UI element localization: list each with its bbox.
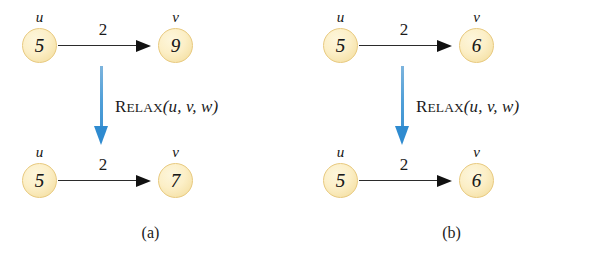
edge-arrow <box>58 44 162 47</box>
panel-caption-a: (a) <box>0 224 301 242</box>
panel-caption-b: (b) <box>301 224 602 242</box>
source-node: 5 <box>22 28 57 63</box>
target-node-name: v <box>459 10 494 25</box>
relax-label-smallcaps: ELAX <box>427 100 463 115</box>
relax-arrow-shaft <box>401 66 404 130</box>
edge-arrowhead-icon <box>136 175 151 187</box>
graph-row-after: u 5 2 v 7 <box>0 145 301 215</box>
relax-label-smallcaps: ELAX <box>126 100 162 115</box>
edge-arrow <box>359 44 463 47</box>
edge-line <box>359 180 447 181</box>
relax-label-args: (u, v, w) <box>163 97 218 116</box>
graph-row-before: u 5 2 v 9 <box>0 10 301 80</box>
edge-arrow <box>58 179 162 182</box>
edge-line <box>58 180 146 181</box>
edge-arrowhead-icon <box>437 175 452 187</box>
panel-b: u 5 2 v 6 RELAX(u, v, w) u 5 2 v 6 <box>301 0 602 262</box>
target-node-name: v <box>459 145 494 160</box>
source-node: 5 <box>323 163 358 198</box>
edge-weight-label: 2 <box>58 20 148 40</box>
relax-label-initial: R <box>115 97 126 116</box>
relax-down-arrow-icon <box>94 66 110 146</box>
source-node-name: u <box>22 145 57 160</box>
edge-weight-label: 2 <box>359 20 449 40</box>
relax-arrow-shaft <box>100 66 103 130</box>
source-node-name: u <box>323 145 358 160</box>
edge-arrowhead-icon <box>437 40 452 52</box>
source-node: 5 <box>323 28 358 63</box>
relax-operation-label: RELAX(u, v, w) <box>115 97 218 117</box>
source-node: 5 <box>22 163 57 198</box>
graph-row-before: u 5 2 v 6 <box>301 10 602 80</box>
relax-down-arrow-icon <box>395 66 411 146</box>
edge-line <box>58 45 146 46</box>
target-node-name: v <box>158 145 193 160</box>
edge-arrowhead-icon <box>136 40 151 52</box>
relax-label-args: (u, v, w) <box>464 97 519 116</box>
edge-arrow <box>359 179 463 182</box>
target-node: 6 <box>459 163 494 198</box>
relax-arrowhead-icon <box>395 126 409 145</box>
relax-arrowhead-icon <box>94 126 108 145</box>
target-node: 7 <box>158 163 193 198</box>
target-node-name: v <box>158 10 193 25</box>
edge-weight-label: 2 <box>359 155 449 175</box>
edge-line <box>359 45 447 46</box>
target-node: 9 <box>158 28 193 63</box>
relax-figure: u 5 2 v 9 RELAX(u, v, w) u 5 2 v <box>0 0 602 262</box>
source-node-name: u <box>323 10 358 25</box>
graph-row-after: u 5 2 v 6 <box>301 145 602 215</box>
relax-operation-label: RELAX(u, v, w) <box>416 97 519 117</box>
target-node: 6 <box>459 28 494 63</box>
relax-label-initial: R <box>416 97 427 116</box>
source-node-name: u <box>22 10 57 25</box>
edge-weight-label: 2 <box>58 155 148 175</box>
panel-a: u 5 2 v 9 RELAX(u, v, w) u 5 2 v <box>0 0 301 262</box>
